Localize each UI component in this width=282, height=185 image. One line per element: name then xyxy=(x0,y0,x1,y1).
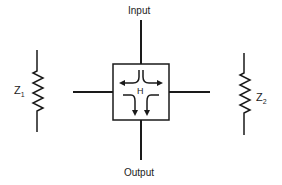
z1-label-main: Z xyxy=(14,84,21,96)
input-label: Input xyxy=(128,6,150,16)
z1-label: Z1 xyxy=(14,85,25,96)
z2-label-main: Z xyxy=(256,91,263,103)
output-label: Output xyxy=(124,168,154,178)
box-label: H xyxy=(137,87,144,96)
z1-resistor-icon xyxy=(33,50,43,132)
z2-label: Z2 xyxy=(256,92,267,103)
z2-resistor-icon xyxy=(240,53,250,135)
z1-label-sub: 1 xyxy=(21,91,25,98)
z2-label-sub: 2 xyxy=(263,98,267,105)
